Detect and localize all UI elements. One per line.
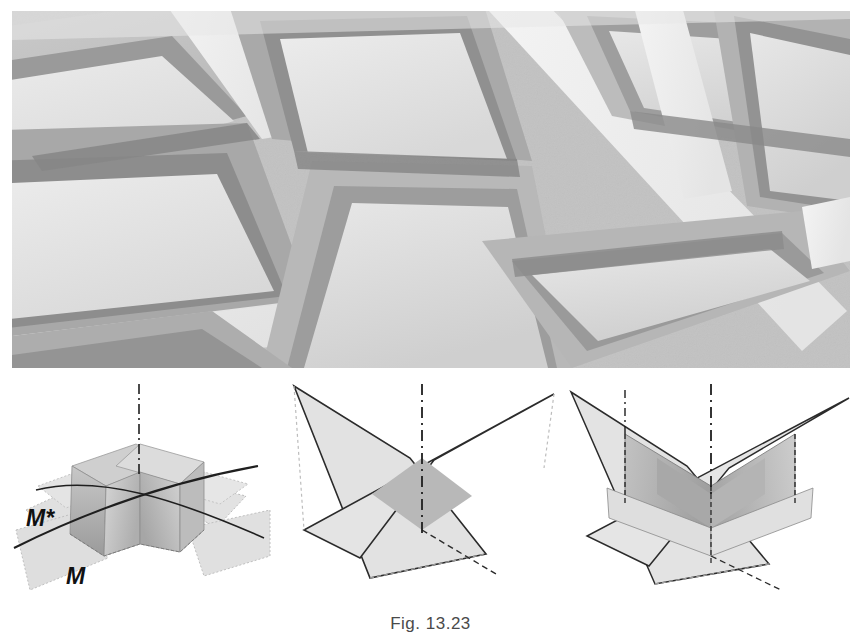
diagram-two-intersecting-mirror-planes (290, 378, 560, 610)
diagram-intersecting-planes-with-vertical-folds (565, 378, 855, 610)
solid-face-right-inner (140, 472, 180, 552)
diagram-1-artwork: M* M (8, 378, 283, 610)
photo-artwork (12, 11, 850, 368)
solid-face-left-inner (104, 472, 140, 556)
figure-page: M* M (0, 0, 861, 632)
diagram-3-artwork (565, 378, 855, 610)
coffered-ceiling-photograph (12, 11, 850, 368)
mirror-plane-label-m-star: M* (26, 505, 55, 531)
diagram-2-artwork (290, 378, 560, 610)
diagram-mirror-planes-with-folded-solid: M* M (8, 378, 283, 610)
mirror-plane-label-m: M (66, 563, 86, 589)
figure-caption: Fig. 13.23 (0, 615, 861, 632)
hidden-edge-right (544, 394, 554, 468)
figure-caption-text: Fig. 13.23 (390, 615, 471, 632)
symmetry-diagram-row: M* M (0, 378, 861, 610)
